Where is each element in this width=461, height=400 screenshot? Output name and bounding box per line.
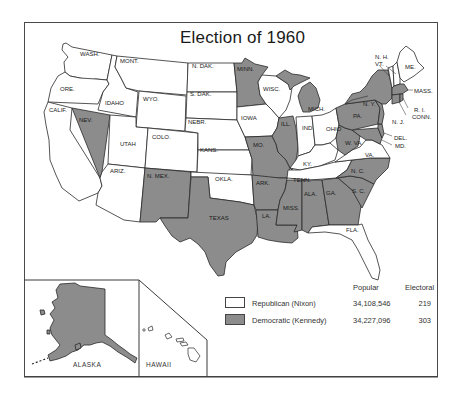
- label-wva: W. VA.: [345, 140, 363, 146]
- state-mass: [392, 84, 408, 95]
- state-conn: [392, 94, 400, 104]
- legend-row-democratic: Democratic (Kennedy) 34,227,096 303: [225, 314, 435, 326]
- state-hawaii: [143, 326, 200, 362]
- us-map: WASH. ORE. CALIF. NEV. IDAHO MONT. WYO. …: [0, 0, 461, 400]
- legend-party: Democratic (Kennedy): [252, 316, 327, 325]
- label-tenn: TENN.: [293, 177, 311, 183]
- label-md: MD.: [395, 143, 406, 149]
- label-ind: IND.: [302, 125, 314, 131]
- legend-popular: 34,227,096: [353, 316, 391, 325]
- label-hawaii: HAWAII: [146, 361, 172, 368]
- label-ri: R. I.: [414, 107, 425, 113]
- label-me: ME.: [405, 64, 416, 70]
- label-ga: GA.: [326, 190, 337, 196]
- label-ohio: OHIO: [326, 126, 342, 132]
- label-vt: VT.: [375, 61, 384, 67]
- state-alaska: [48, 283, 137, 363]
- label-wisc: WISC.: [263, 86, 281, 92]
- label-ala: ALA.: [304, 191, 317, 197]
- state-ri: [400, 94, 403, 102]
- legend-row-republican: Republican (Nixon) 34,108,546 219: [225, 297, 435, 309]
- state-kans: [197, 150, 252, 175]
- label-ny: N. Y.: [363, 101, 376, 107]
- label-wash: WASH.: [80, 51, 100, 57]
- label-miss: MISS.: [283, 205, 300, 211]
- label-va: VA.: [365, 152, 375, 158]
- label-nev: NEV.: [79, 117, 93, 123]
- label-ndak: N. DAK.: [192, 63, 214, 69]
- legend-electoral: 219: [415, 299, 431, 308]
- label-nh: N. H.: [375, 54, 389, 60]
- state-ny: [345, 70, 392, 104]
- label-kans: KANS.: [200, 147, 218, 153]
- label-ky: KY.: [303, 161, 312, 167]
- label-del: DEL.: [394, 135, 408, 141]
- label-mich: MICH.: [308, 106, 325, 112]
- label-conn: CONN.: [412, 114, 432, 120]
- label-pa: PA.: [353, 113, 363, 119]
- label-nmex: N. MEX.: [147, 173, 170, 179]
- state-fla: [308, 224, 380, 280]
- label-idaho: IDAHO: [105, 100, 124, 106]
- republican-swatch: [225, 297, 245, 308]
- label-sdak: S. DAK.: [190, 91, 212, 97]
- label-mo: MO.: [253, 142, 265, 148]
- label-ill: ILL.: [281, 121, 291, 127]
- label-nj: N. J.: [392, 119, 405, 125]
- legend-popular: 34,108,546: [353, 299, 391, 308]
- label-nc: N. C.: [351, 168, 365, 174]
- legend-party: Republican (Nixon): [252, 299, 316, 308]
- state-wash: [62, 43, 112, 80]
- label-texas: TEXAS: [209, 215, 229, 221]
- label-iowa: IOWA: [241, 115, 257, 121]
- label-sc: S. C.: [352, 188, 366, 194]
- label-fla: FLA.: [346, 227, 359, 233]
- label-okla: OKLA.: [215, 176, 233, 182]
- democratic-swatch: [225, 314, 245, 325]
- label-minn: MINN.: [237, 66, 254, 72]
- map-title: Election of 1960: [180, 28, 305, 48]
- label-colo: COLO.: [152, 134, 171, 140]
- legend-header-popular: Popular: [353, 283, 379, 292]
- label-ariz: ARIZ.: [110, 168, 126, 174]
- label-alaska: ALASKA: [73, 361, 101, 368]
- inset-alaska: ALASKA: [24, 280, 139, 377]
- label-mass: MASS.: [414, 88, 433, 94]
- label-mont: MONT.: [120, 58, 139, 64]
- label-ore: ORE.: [60, 86, 75, 92]
- label-calif: CALIF.: [49, 107, 67, 113]
- legend-header-electoral: Electoral: [405, 283, 434, 292]
- label-utah: UTAH: [120, 141, 136, 147]
- label-nebr: NEBR.: [188, 119, 207, 125]
- label-wyo: WYO.: [143, 96, 159, 102]
- legend-electoral: 303: [415, 316, 431, 325]
- label-ark: ARK.: [256, 180, 270, 186]
- label-la: LA.: [262, 213, 271, 219]
